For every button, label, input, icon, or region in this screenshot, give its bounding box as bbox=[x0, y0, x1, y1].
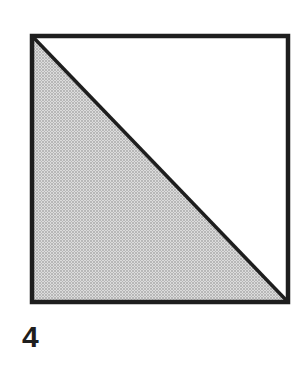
figure-number-label: 4 bbox=[22, 322, 39, 352]
square-diagram bbox=[0, 0, 307, 366]
figure-4: 4 bbox=[0, 0, 307, 366]
